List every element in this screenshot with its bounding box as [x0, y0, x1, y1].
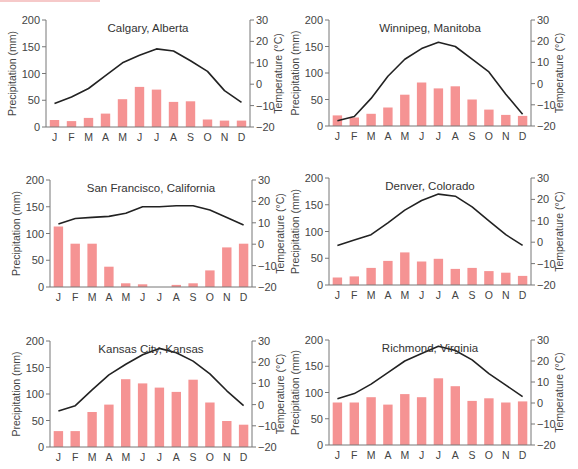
precipitation-bar	[350, 276, 359, 285]
right-tick-label: 20	[537, 193, 549, 205]
chart-title: Winnipeg, Manitoba	[379, 22, 481, 34]
chart-panel: 050100150200−20−100102030JFMAMJJASONDDen…	[289, 172, 565, 301]
left-tick-label: 150	[26, 362, 44, 374]
precipitation-bar	[501, 403, 510, 446]
chart-panel: 050100150200−20−100102030JFMAMJJASONDWin…	[289, 14, 565, 142]
month-label: J	[419, 449, 424, 461]
temperature-line	[337, 346, 522, 399]
precipitation-bar	[54, 431, 63, 447]
month-label: D	[240, 291, 248, 303]
month-label: A	[452, 449, 459, 461]
right-tick-label: 10	[256, 57, 268, 69]
month-label: A	[452, 289, 459, 301]
month-label: N	[221, 131, 229, 143]
month-label: A	[384, 289, 391, 301]
left-tick-label: 100	[305, 67, 323, 79]
left-tick-label: 50	[32, 254, 44, 266]
month-label: S	[469, 130, 476, 142]
right-tick-label: 0	[537, 236, 543, 248]
month-label: M	[121, 291, 130, 303]
precipitation-bar	[50, 120, 59, 127]
precipitation-bar	[333, 403, 342, 446]
left-tick-label: 150	[305, 41, 323, 53]
month-label: M	[84, 131, 93, 143]
precipitation-bar	[383, 261, 392, 285]
right-axis-title: Temperature (°C)	[553, 191, 565, 272]
precipitation-bar	[417, 262, 426, 286]
chart-title: Denver, Colorado	[385, 180, 475, 192]
left-tick-label: 50	[311, 94, 323, 106]
month-label: M	[121, 451, 130, 463]
right-tick-label: 20	[537, 355, 549, 367]
right-tick-label: −20	[537, 439, 556, 451]
right-tick-label: 30	[258, 335, 270, 347]
precipitation-bar	[104, 405, 113, 447]
left-tick-label: 0	[317, 439, 323, 451]
right-tick-label: 30	[258, 174, 270, 186]
precipitation-bar	[67, 121, 76, 127]
month-label: A	[384, 130, 391, 142]
precipitation-bar	[118, 99, 127, 127]
precipitation-bar	[135, 87, 144, 127]
month-label: J	[436, 449, 441, 461]
right-tick-label: 0	[258, 399, 264, 411]
precipitation-bar	[205, 270, 214, 287]
month-label: S	[190, 451, 197, 463]
month-label: J	[335, 289, 340, 301]
right-tick-label: 20	[256, 35, 268, 47]
left-tick-label: 100	[305, 387, 323, 399]
month-label: D	[240, 451, 248, 463]
month-label: F	[351, 289, 357, 301]
month-label: A	[105, 451, 112, 463]
month-label: D	[519, 449, 527, 461]
precipitation-bar	[383, 405, 392, 445]
month-label: N	[502, 449, 510, 461]
precipitation-bar	[366, 114, 375, 126]
left-tick-label: 200	[22, 14, 40, 26]
month-label: M	[400, 289, 409, 301]
precipitation-bar	[417, 397, 426, 445]
month-label: O	[485, 289, 493, 301]
right-tick-label: 30	[537, 14, 549, 26]
left-tick-label: 200	[305, 14, 323, 26]
month-label: M	[400, 449, 409, 461]
month-label: S	[469, 449, 476, 461]
precipitation-bar	[71, 431, 80, 447]
precipitation-bar	[152, 90, 161, 127]
month-label: M	[367, 289, 376, 301]
precipitation-bar	[400, 252, 409, 285]
month-label: J	[52, 131, 57, 143]
right-tick-label: −20	[258, 441, 277, 453]
month-label: J	[436, 130, 441, 142]
right-axis-title: Temperature (°C)	[272, 33, 284, 114]
month-label: D	[519, 130, 527, 142]
precipitation-bar	[518, 276, 527, 285]
month-label: A	[173, 291, 180, 303]
month-label: S	[469, 289, 476, 301]
left-tick-label: 200	[305, 334, 323, 346]
precipitation-bar	[54, 227, 63, 288]
month-label: N	[223, 291, 231, 303]
month-label: M	[367, 449, 376, 461]
month-label: J	[140, 451, 145, 463]
month-label: F	[68, 131, 74, 143]
chart-title: Richmond, Virginia	[382, 342, 479, 354]
precipitation-bar	[501, 115, 510, 126]
precipitation-bar	[87, 412, 96, 447]
left-tick-label: 100	[26, 388, 44, 400]
precipitation-bar	[400, 394, 409, 445]
month-label: A	[384, 449, 391, 461]
left-axis-title: Precipitation (mm)	[289, 30, 301, 115]
month-label: M	[118, 131, 127, 143]
climate-charts-figure: 050100150200−20−100102030JFMAMJJASONDCal…	[0, 0, 578, 469]
month-label: N	[502, 289, 510, 301]
chart-title: Calgary, Alberta	[108, 22, 190, 34]
left-axis-title: Precipitation (mm)	[6, 31, 18, 116]
right-tick-label: 30	[256, 14, 268, 26]
month-label: J	[154, 131, 159, 143]
right-tick-label: 0	[537, 397, 543, 409]
month-label: A	[105, 291, 112, 303]
month-label: O	[485, 130, 493, 142]
temperature-line	[58, 348, 243, 411]
right-tick-label: 10	[537, 376, 549, 388]
